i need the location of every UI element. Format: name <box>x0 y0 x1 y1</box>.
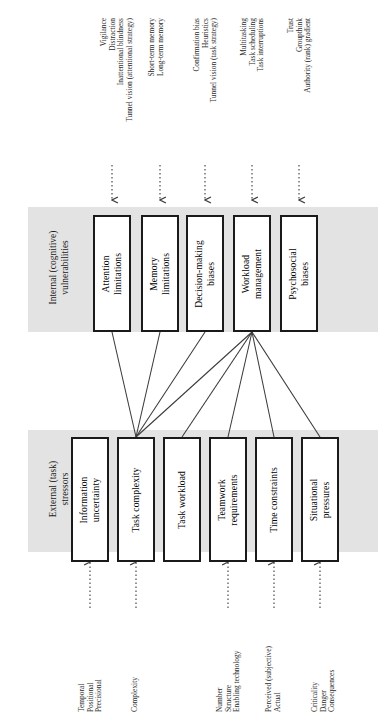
node-decision-making-biases[interactable]: Decision-making biases <box>186 215 224 332</box>
node-label: Memory limitations <box>148 252 172 294</box>
node-memory-limitations[interactable]: Memory limitations <box>141 215 179 332</box>
node-psychosocial-biases[interactable]: Psychosocial biases <box>280 215 318 332</box>
node-teamwork-requirements[interactable]: Teamwork requirements <box>209 437 247 562</box>
annotation-decision-inputs: Confirmation bias Heuristics Tunnel visi… <box>193 18 219 158</box>
diagram-canvas: Internal (cognitive) vulnerabilities Ext… <box>0 0 378 715</box>
annotation-complexity-inputs: Complexity <box>131 602 140 712</box>
annotation-teamwork-inputs: Number Structure Enabling technology <box>216 602 242 712</box>
annotation-memory-inputs: Short-term memory Long-term memory <box>148 18 165 158</box>
node-task-workload[interactable]: Task workload <box>163 437 201 562</box>
node-information-uncertainty[interactable]: Information uncertainty <box>71 437 109 562</box>
annotation-psychosocial-inputs: Trust Groupthink Authority (rank) gradie… <box>287 18 313 158</box>
node-label: Task workload <box>176 471 188 529</box>
node-label: Teamwork requirements <box>216 474 240 525</box>
node-label: Time constraints <box>268 467 280 532</box>
node-situational-pressures[interactable]: Situational pressures <box>301 437 339 562</box>
node-label: Information uncertainty <box>78 476 102 523</box>
node-label: Workload management <box>240 248 264 298</box>
annotation-attention-inputs: Vigilance Distraction Inattentional blin… <box>100 18 135 158</box>
node-time-constraints[interactable]: Time constraints <box>255 437 293 562</box>
band-title-external: External (task) stressors <box>48 430 71 548</box>
node-label: Psychosocial biases <box>287 248 311 299</box>
annotation-time-inputs: Perceived (subjective) Actual <box>265 602 282 712</box>
node-workload-management[interactable]: Workload management <box>233 215 271 332</box>
node-task-complexity[interactable]: Task complexity <box>117 437 155 562</box>
band-title-internal: Internal (cognitive) vulnerabilities <box>48 205 71 330</box>
annotation-information-inputs: Temporal Positional Precisional <box>78 602 104 712</box>
node-label: Attention limitations <box>100 252 124 294</box>
node-attention-limitations[interactable]: Attention limitations <box>93 215 131 332</box>
annotation-situational-inputs: Criticality Danger Consequences <box>311 602 337 712</box>
node-label: Task complexity <box>130 467 142 532</box>
node-label: Decision-making biases <box>193 240 217 308</box>
node-label: Situational pressures <box>308 478 332 521</box>
annotation-workload-inputs: Multitasking Task scheduling Task interr… <box>240 18 266 158</box>
